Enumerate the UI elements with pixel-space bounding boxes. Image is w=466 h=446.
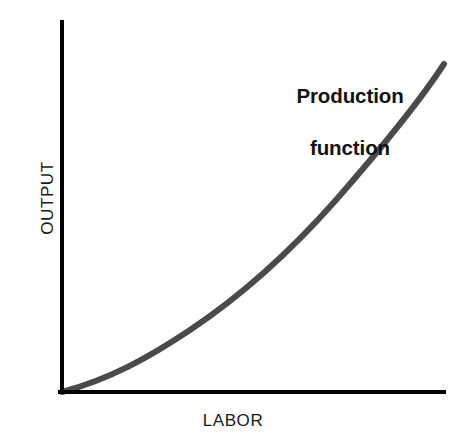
production-function-label: Production function xyxy=(262,57,438,161)
production-function-label-line2: function xyxy=(310,136,390,159)
x-axis-title: LABOR xyxy=(0,411,466,431)
production-function-chart: OUTPUT LABOR Production function xyxy=(0,0,466,446)
production-function-label-line1: Production xyxy=(296,84,403,107)
y-axis-title: OUTPUT xyxy=(0,150,96,246)
